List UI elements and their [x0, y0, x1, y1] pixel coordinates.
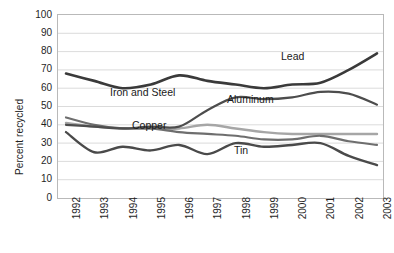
series-label-copper: Copper: [132, 119, 166, 131]
series-label-aluminum: Aluminum: [227, 93, 274, 105]
y-tick-label: 40: [22, 118, 52, 129]
y-axis-tick-labels: 1009080706050403020100: [22, 9, 52, 203]
x-tick-label: 1998: [241, 197, 253, 251]
series-label-iron-and-steel: Iron and Steel: [110, 86, 175, 98]
y-tick-label: 80: [22, 45, 52, 56]
x-tick-label: 2002: [354, 197, 366, 251]
x-tick-label: 1996: [184, 197, 196, 251]
x-tick-label: 1992: [71, 197, 83, 251]
y-tick-label: 20: [22, 155, 52, 166]
x-tick-label: 2001: [325, 197, 337, 251]
plot-area: Tin Aluminum Copper Iron and Steel Lead: [57, 14, 384, 199]
series-label-tin: Tin: [234, 144, 248, 156]
y-tick-label: 100: [22, 9, 52, 20]
x-tick-label: 1997: [212, 197, 224, 251]
x-tick-label: 1993: [99, 197, 111, 251]
x-tick-label: 2003: [382, 197, 394, 251]
y-tick-label: 30: [22, 137, 52, 148]
y-tick-label: 50: [22, 100, 52, 111]
gridlines: [58, 33, 383, 179]
x-tick-label: 1994: [128, 197, 140, 251]
series-line-copper: [66, 117, 377, 144]
y-tick-label: 0: [22, 192, 52, 203]
x-tick-label: 2000: [297, 197, 309, 251]
x-axis-tick-labels: 1992199319941995199619971998199920002001…: [57, 199, 382, 253]
y-tick-label: 10: [22, 173, 52, 184]
y-tick-label: 70: [22, 63, 52, 74]
series-label-lead: Lead: [281, 50, 304, 62]
plot-svg: [58, 15, 383, 198]
x-tick-label: 1995: [156, 197, 168, 251]
y-tick-label: 90: [22, 27, 52, 38]
series-line-lead: [66, 53, 377, 88]
x-tick-label: 1999: [269, 197, 281, 251]
y-tick-label: 60: [22, 82, 52, 93]
